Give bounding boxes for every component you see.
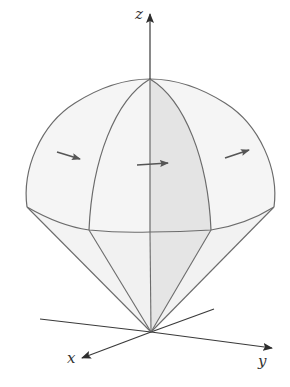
sphere-cap-surface [26, 79, 275, 232]
x-axis [82, 332, 151, 358]
back-axes [40, 309, 214, 332]
diagram-canvas: z x y [0, 0, 290, 387]
y-axis-label: y [257, 352, 267, 370]
negative-y-axis [40, 319, 151, 332]
y-axis [151, 332, 272, 348]
sphere-cone-diagram: z x y [0, 0, 290, 387]
x-axis-label: x [67, 349, 76, 367]
z-axis-label: z [134, 5, 143, 23]
